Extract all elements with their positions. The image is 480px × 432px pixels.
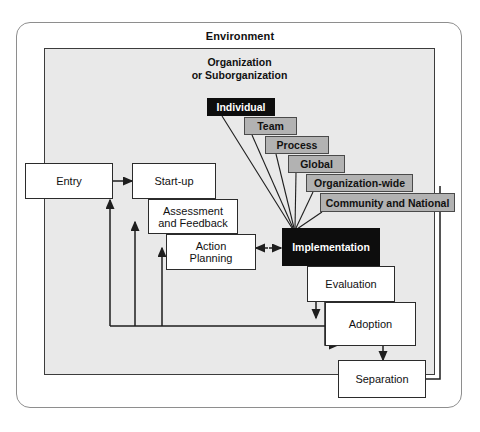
- node-action-line1: Action: [196, 240, 227, 252]
- node-implementation[interactable]: Implementation: [282, 228, 380, 266]
- node-assessment-line2: and Feedback: [158, 217, 228, 229]
- level-global[interactable]: Global: [288, 155, 345, 173]
- level-process[interactable]: Process: [265, 136, 329, 154]
- node-action-planning[interactable]: Action Planning: [166, 234, 256, 270]
- node-evaluation[interactable]: Evaluation: [307, 266, 395, 302]
- level-individual[interactable]: Individual: [207, 98, 275, 116]
- level-organization-wide[interactable]: Organization-wide: [306, 174, 413, 192]
- node-entry[interactable]: Entry: [25, 163, 113, 199]
- node-assessment-line1: Assessment: [163, 205, 223, 217]
- level-community-national[interactable]: Community and National: [320, 193, 455, 212]
- node-startup[interactable]: Start-up: [132, 163, 216, 199]
- node-adoption[interactable]: Adoption: [325, 302, 416, 346]
- node-separation[interactable]: Separation: [338, 360, 426, 398]
- node-action-line2: Planning: [190, 252, 233, 264]
- node-assessment-feedback[interactable]: Assessment and Feedback: [148, 199, 238, 234]
- level-team[interactable]: Team: [244, 117, 297, 135]
- diagram-canvas: Environment Organization or Suborganizat…: [0, 0, 480, 432]
